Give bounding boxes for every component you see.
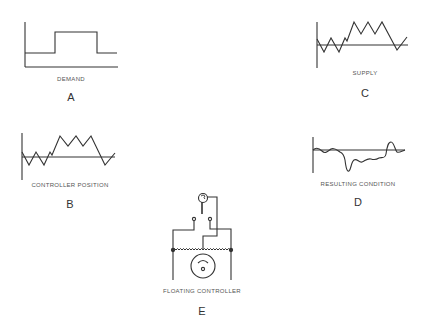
supply-caption: SUPPLY bbox=[352, 70, 377, 76]
supply-zigzag-curve bbox=[317, 22, 407, 52]
panel-label-d: D bbox=[354, 196, 362, 208]
left-contact-icon bbox=[192, 217, 195, 220]
coil-left-terminal bbox=[171, 248, 174, 251]
demand-step-curve bbox=[25, 32, 117, 53]
coil-winding bbox=[173, 249, 230, 251]
resulting-condition-caption: RESULTING CONDITION bbox=[321, 181, 396, 187]
controller-position-graph bbox=[22, 133, 115, 180]
condition-wave-curve bbox=[313, 142, 405, 171]
panel-label-e: E bbox=[198, 305, 205, 317]
panel-label-b: B bbox=[66, 198, 73, 210]
right-contact-icon bbox=[208, 217, 211, 220]
diagram-canvas bbox=[0, 0, 425, 331]
floating-controller-diagram bbox=[171, 194, 232, 281]
panel-label-c: C bbox=[361, 87, 369, 99]
controller-zigzag-curve bbox=[22, 136, 115, 165]
motor-icon bbox=[191, 254, 215, 278]
coil-right-terminal bbox=[229, 248, 232, 251]
controller-position-caption: CONTROLLER POSITION bbox=[31, 182, 108, 188]
demand-caption: DEMAND bbox=[57, 76, 85, 82]
resulting-condition-graph bbox=[313, 137, 405, 173]
right-wire bbox=[210, 221, 231, 280]
floating-controller-caption: FLOATING CONTROLLER bbox=[163, 288, 241, 294]
supply-graph bbox=[317, 22, 408, 68]
demand-graph bbox=[25, 22, 118, 67]
panel-label-a: A bbox=[67, 91, 74, 103]
